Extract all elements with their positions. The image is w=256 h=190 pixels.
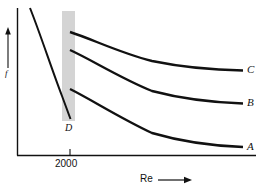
- transition-band-shade: [62, 11, 75, 121]
- up-arrow-icon: [5, 27, 11, 68]
- curve-label-a: A: [247, 141, 254, 152]
- x-axis-label: Re: [140, 174, 153, 184]
- y-axis-label: f: [5, 69, 8, 78]
- curve-a: [70, 89, 243, 147]
- right-arrow-icon: [158, 177, 192, 183]
- x-axis-tick-label-2000: 2000: [55, 159, 77, 169]
- friction-factor-figure: f 2000 Re D C B A: [0, 0, 256, 190]
- curve-label-c: C: [247, 64, 254, 75]
- plot-canvas: [0, 0, 256, 190]
- curve-label-b: B: [247, 97, 254, 108]
- curve-b: [70, 50, 243, 104]
- curve-c: [70, 32, 243, 71]
- band-label-d: D: [65, 123, 72, 133]
